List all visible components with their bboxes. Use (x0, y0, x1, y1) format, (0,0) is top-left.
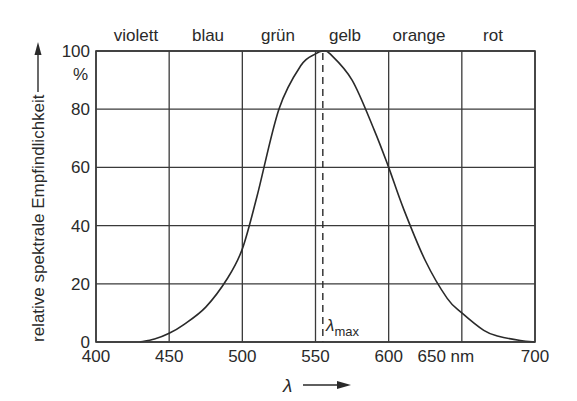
x-tick-label: 500 (228, 347, 256, 366)
color-band-label: rot (483, 26, 503, 45)
y-tick-label: 20 (71, 275, 90, 294)
color-band-label: grün (261, 26, 295, 45)
spectral-sensitivity-chart: violettblaugrüngelborangerot 02040608010… (0, 0, 577, 401)
color-band-label: blau (192, 26, 224, 45)
y-unit-label: % (73, 65, 88, 84)
color-band-labels: violettblaugrüngelborangerot (114, 26, 503, 45)
color-band-label: violett (114, 26, 159, 45)
x-axis-arrow-icon (303, 381, 351, 389)
color-band-label: gelb (329, 26, 361, 45)
x-tick-label: 550 (301, 347, 329, 366)
x-tick-label: 700 (521, 347, 549, 366)
grid-lines (96, 51, 535, 342)
sensitivity-curve (140, 51, 535, 342)
x-tick-label: 450 (155, 347, 183, 366)
lambda-max-label: λmax (325, 316, 359, 339)
y-tick-label: 80 (71, 100, 90, 119)
color-band-label: orange (393, 26, 446, 45)
x-tick-label: 650 nm (417, 347, 474, 366)
x-tick-label: 400 (82, 347, 110, 366)
y-axis-title: relative spektrale Empfindlichkeit (29, 94, 48, 342)
x-tick-labels: 400450500550600650 nm700 (82, 347, 549, 366)
y-tick-label: 60 (71, 158, 90, 177)
x-tick-label: 600 (374, 347, 402, 366)
svg-text:relative spektrale Empfindlich: relative spektrale Empfindlichkeit (29, 94, 48, 342)
y-tick-labels: 020406080100 (62, 42, 90, 352)
x-axis-symbol: λ (282, 375, 292, 396)
y-tick-label: 40 (71, 217, 90, 236)
y-tick-label: 100 (62, 42, 90, 61)
y-axis-arrow-icon (35, 42, 42, 92)
